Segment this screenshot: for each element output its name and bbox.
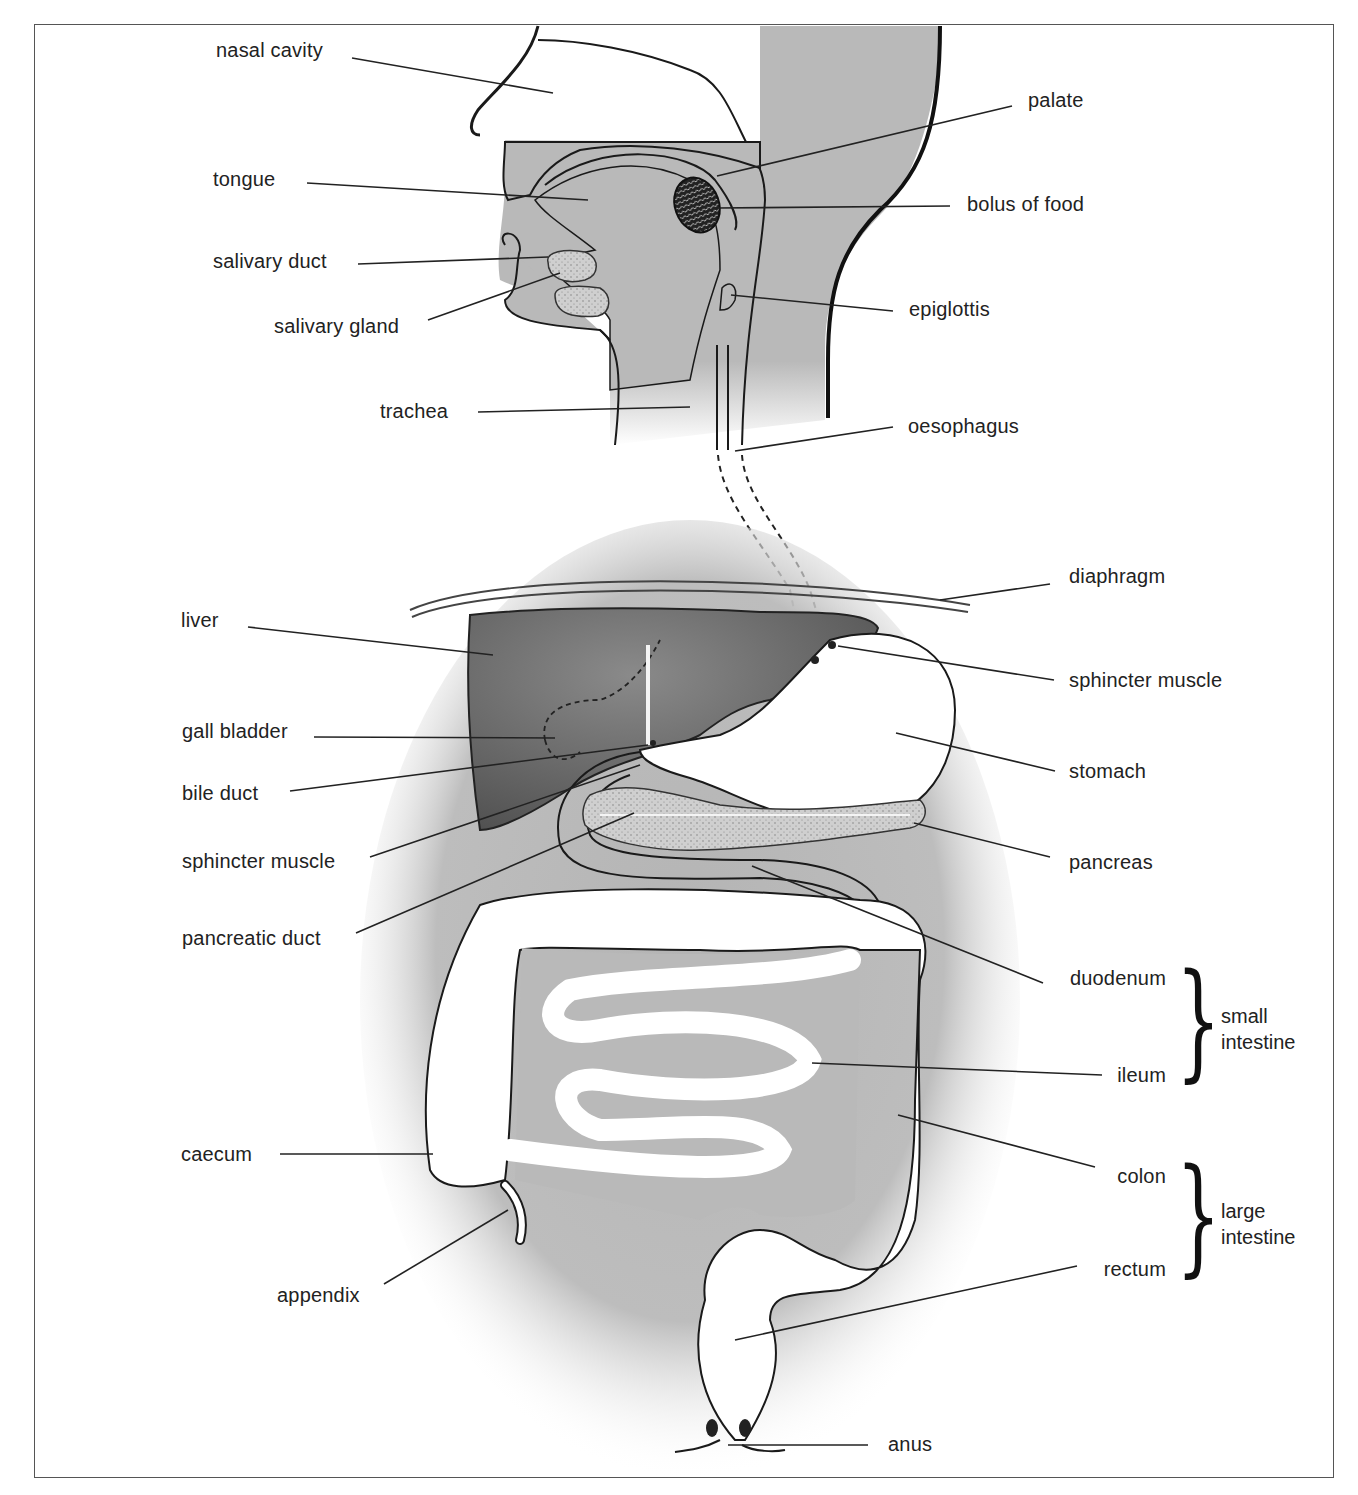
brace-small-intestine: } xyxy=(1176,955,1221,1085)
label-bolus-of-food: bolus of food xyxy=(967,193,1084,215)
label-palate: palate xyxy=(1028,89,1084,111)
label-rectum: rectum xyxy=(1060,1258,1166,1280)
label-sphincter-muscle-right: sphincter muscle xyxy=(1069,669,1222,691)
label-salivary-duct: salivary duct xyxy=(213,250,327,272)
label-epiglottis: epiglottis xyxy=(909,298,990,320)
label-diaphragm: diaphragm xyxy=(1069,565,1165,587)
label-salivary-gland: salivary gland xyxy=(274,315,399,337)
group-small-intestine: small intestine xyxy=(1221,1003,1321,1055)
label-sphincter-muscle-left: sphincter muscle xyxy=(182,850,335,872)
label-nasal-cavity: nasal cavity xyxy=(216,39,323,61)
label-oesophagus: oesophagus xyxy=(908,415,1019,437)
label-trachea: trachea xyxy=(380,400,448,422)
label-anus: anus xyxy=(888,1433,932,1455)
label-pancreas: pancreas xyxy=(1069,851,1153,873)
label-duodenum: duodenum xyxy=(1040,967,1166,989)
label-gall-bladder: gall bladder xyxy=(182,720,288,742)
label-appendix: appendix xyxy=(277,1284,360,1306)
label-bile-duct: bile duct xyxy=(182,782,258,804)
label-stomach: stomach xyxy=(1069,760,1146,782)
label-liver: liver xyxy=(181,609,219,631)
group-large-intestine: large intestine xyxy=(1221,1198,1321,1250)
label-pancreatic-duct: pancreatic duct xyxy=(182,927,321,949)
brace-large-intestine: } xyxy=(1176,1150,1221,1280)
label-tongue: tongue xyxy=(213,168,275,190)
label-colon: colon xyxy=(1080,1165,1166,1187)
head-section xyxy=(470,26,940,450)
label-ileum: ileum xyxy=(1080,1064,1166,1086)
label-caecum: caecum xyxy=(181,1143,252,1165)
